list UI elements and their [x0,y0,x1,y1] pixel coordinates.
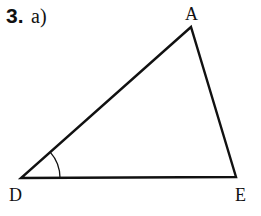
vertex-label-e: E [235,185,246,206]
angle-d-arc [50,152,60,178]
vertex-label-d: D [9,185,22,206]
vertex-label-a: A [185,4,198,25]
triangle-diagram [0,0,261,216]
